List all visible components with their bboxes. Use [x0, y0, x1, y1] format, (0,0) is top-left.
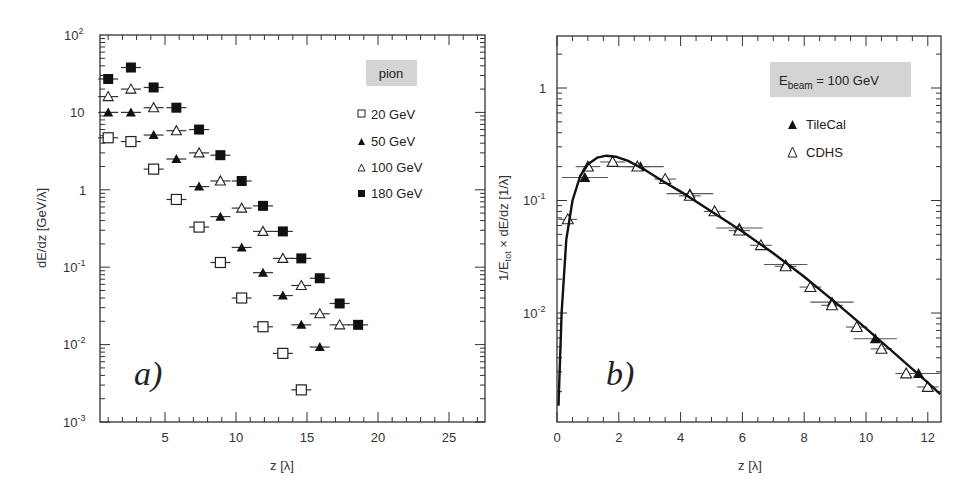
panel-a-plot: 102 10 1 10-1 10-2 10-3 510152025 z [λ] …	[34, 26, 485, 473]
y-tick-1e-2: 10-2	[63, 335, 85, 352]
x-tick-15: 15	[300, 430, 314, 445]
y-tick-1e-1: 10-1	[63, 258, 85, 275]
x-tick-0: 0	[553, 430, 560, 445]
panel-a-x-axis-label: z [λ]	[270, 458, 294, 473]
open-triangle-icon	[358, 164, 365, 171]
panel-b-y-axis-label: 1/Etot × dE/dz [1/λ]	[496, 175, 513, 281]
x-tick-12: 12	[921, 430, 935, 445]
panel-a-y-tick-labels: 102 10 1 10-1 10-2 10-3	[63, 26, 86, 430]
panel-b-y-tick-labels: 1 10-1 10-2	[523, 81, 546, 321]
series-100-gev	[98, 84, 349, 329]
panel-a-legend: pion 20 GeV 50 GeV 100 GeV 180 GeV	[358, 60, 423, 201]
panel-b-x-tick-labels: 024681012	[553, 430, 935, 445]
x-tick-10: 10	[859, 430, 873, 445]
y-tick-1e2: 102	[64, 26, 83, 43]
filled-triangle-icon	[788, 120, 797, 129]
panel-a-label: a)	[134, 355, 162, 393]
figure: 102 10 1 10-1 10-2 10-3 510152025 z [λ] …	[0, 0, 976, 495]
y-tick-1: 1	[539, 81, 546, 96]
x-tick-8: 8	[801, 430, 808, 445]
panel-b-x-axis-label: z [λ]	[738, 458, 762, 473]
filled-square-icon	[358, 190, 365, 197]
panel-b-legend: Ebeam = 100 GeV TileCal CDHS	[770, 62, 911, 160]
legend-50gev: 50 GeV	[371, 134, 415, 149]
panel-a-data-points	[98, 63, 368, 395]
y-tick-1e-2: 10-2	[523, 304, 545, 321]
legend-100gev: 100 GeV	[371, 160, 423, 175]
filled-triangle-icon	[358, 138, 365, 145]
x-tick-20: 20	[371, 430, 385, 445]
y-tick-1e-3: 10-3	[63, 413, 85, 430]
panel-a-y-axis-label: dE/dz [GeV/λ]	[34, 188, 49, 268]
y-tick-1e-1: 10-1	[523, 191, 545, 208]
x-tick-2: 2	[615, 430, 622, 445]
panel-a-x-tick-labels: 510152025	[161, 430, 456, 445]
x-tick-5: 5	[161, 430, 168, 445]
legend-tilecal: TileCal	[806, 117, 846, 132]
panel-b-plot: 1 10-1 10-2 024681012 z [λ] 1/Etot × dE/…	[496, 36, 941, 473]
open-triangle-icon	[788, 147, 797, 157]
series-tilecal	[562, 161, 941, 378]
legend-cdhs: CDHS	[806, 145, 843, 160]
y-tick-1: 1	[79, 183, 86, 198]
x-tick-6: 6	[739, 430, 746, 445]
x-tick-25: 25	[442, 430, 456, 445]
series-20-gev	[98, 133, 311, 395]
panel-b-label: b)	[606, 355, 634, 393]
x-tick-4: 4	[677, 430, 684, 445]
legend-20gev: 20 GeV	[371, 107, 415, 122]
legend-title: pion	[379, 66, 404, 81]
open-square-icon	[358, 110, 365, 117]
series-180-gev	[98, 63, 368, 330]
legend-180gev: 180 GeV	[371, 186, 423, 201]
y-tick-10: 10	[70, 105, 84, 120]
x-tick-10: 10	[229, 430, 243, 445]
